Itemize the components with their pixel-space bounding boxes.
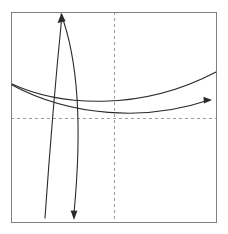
figure-canvas	[0, 0, 228, 234]
plot-area	[0, 0, 228, 234]
